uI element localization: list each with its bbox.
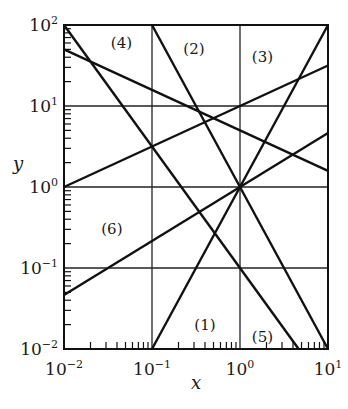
y-tick-label: 101 [29, 95, 58, 116]
y-tick-label: 10−2 [20, 338, 58, 359]
y-tick-label: 100 [29, 176, 58, 197]
x-axis-title: x [191, 372, 201, 393]
x-tick-label: 10−1 [133, 358, 171, 379]
curve-6 [64, 133, 328, 295]
curve-3 [64, 66, 328, 187]
curve-label-4: (4) [111, 34, 132, 52]
x-tick-label: 101 [314, 358, 343, 379]
curve-label-5: (5) [252, 328, 273, 346]
curve-label-6: (6) [101, 220, 122, 238]
minor-ticks [64, 29, 324, 349]
y-tick-label: 102 [29, 14, 58, 35]
curve-4 [64, 49, 328, 171]
log-log-chart: 10−210−1100101 10−210−1100101102 (1)(2)(… [0, 0, 348, 409]
y-tick-labels: 10−210−1100101102 [20, 14, 58, 359]
y-axis-title: y [12, 153, 24, 174]
y-tick-label: 10−1 [20, 257, 58, 278]
curve-label-2: (2) [183, 40, 204, 58]
curve-labels: (1)(2)(3)(4)(5)(6) [101, 34, 273, 346]
curve-label-3: (3) [252, 48, 273, 66]
x-tick-label: 10−2 [45, 358, 83, 379]
x-tick-label: 100 [226, 358, 255, 379]
grid-lines [64, 25, 328, 349]
curve-label-1: (1) [194, 316, 215, 334]
